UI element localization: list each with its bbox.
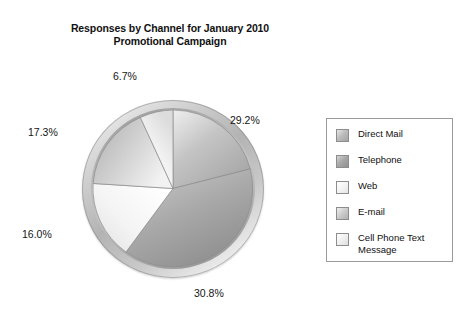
legend-label-direct-mail: Direct Mail bbox=[358, 128, 403, 140]
email-swatch-icon bbox=[336, 207, 349, 220]
page-title: Responses by Channel for January 2010 Pr… bbox=[0, 22, 340, 48]
telephone-swatch-icon bbox=[336, 155, 349, 168]
slice-label-web: 16.0% bbox=[22, 228, 52, 240]
chart-legend: Direct Mail Telephone Web E-mail Cell Ph… bbox=[326, 118, 453, 262]
cell-phone-text-message-swatch-icon bbox=[336, 233, 349, 246]
slice-label-direct-mail: 29.2% bbox=[230, 114, 260, 126]
direct-mail-swatch-icon bbox=[336, 129, 349, 142]
legend-item-web[interactable]: Web bbox=[327, 180, 452, 206]
legend-label-telephone: Telephone bbox=[358, 154, 402, 166]
legend-item-direct-mail[interactable]: Direct Mail bbox=[327, 128, 452, 154]
legend-item-email[interactable]: E-mail bbox=[327, 206, 452, 232]
page-title-line-1: Responses by Channel for January 2010 bbox=[0, 22, 340, 35]
pie-slices bbox=[93, 110, 253, 267]
legend-label-web: Web bbox=[358, 180, 377, 192]
legend-label-cell-phone-text-message: Cell Phone Text Message bbox=[358, 232, 450, 256]
web-swatch-icon bbox=[336, 181, 349, 194]
page-title-line-2: Promotional Campaign bbox=[0, 35, 340, 48]
slice-label-email: 17.3% bbox=[28, 126, 58, 138]
legend-label-email: E-mail bbox=[358, 206, 385, 218]
slice-label-telephone: 30.8% bbox=[194, 287, 224, 299]
legend-item-telephone[interactable]: Telephone bbox=[327, 154, 452, 180]
pie-chart bbox=[82, 100, 268, 282]
legend-item-cell-phone-text-message[interactable]: Cell Phone Text Message bbox=[327, 232, 452, 262]
slice-label-cell-phone-text-message: 6.7% bbox=[113, 70, 137, 82]
